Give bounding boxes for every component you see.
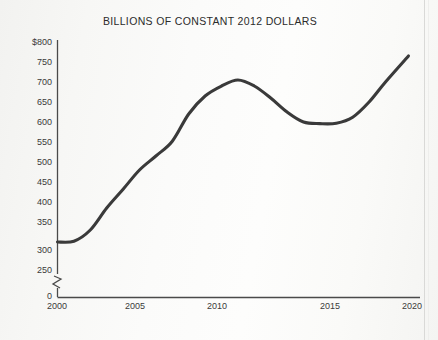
chart-page: BILLIONS OF CONSTANT 2012 DOLLARS $800 7… xyxy=(0,0,438,340)
series-line-spending xyxy=(58,56,409,242)
chart-plot-area xyxy=(0,0,438,340)
axis-break-zigzag-icon xyxy=(53,276,61,288)
